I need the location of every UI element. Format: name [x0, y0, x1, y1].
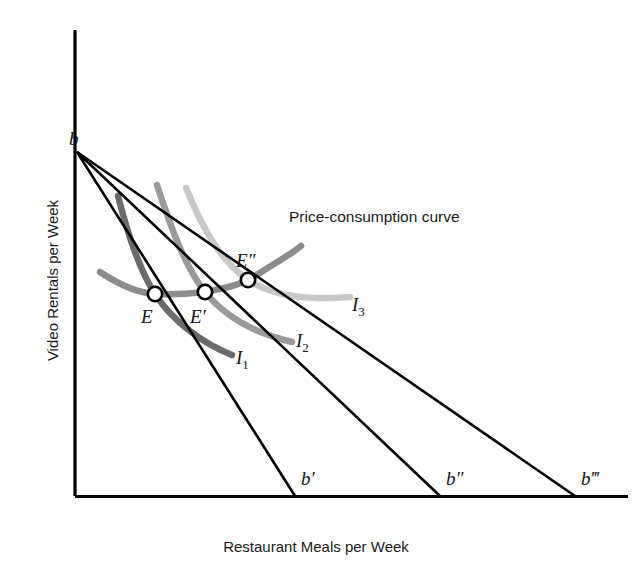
equilibrium-marker-E — [148, 287, 162, 301]
indifference-curve-label-1: I1 — [236, 347, 249, 373]
economics-figure: Restaurant Meals per Week Video Rentals … — [0, 0, 632, 573]
equilibrium-marker-E-prime — [198, 285, 212, 299]
budget-line-2 — [77, 152, 440, 496]
indifference-curve-label-2-sub: 2 — [302, 340, 309, 355]
chart-canvas — [0, 0, 632, 573]
equilibrium-marker-E-double-prime — [241, 273, 255, 287]
budget-end-label-1: b′ — [301, 468, 315, 490]
x-axis-title: Restaurant Meals per Week — [0, 538, 632, 555]
budget-origin-label: b — [69, 128, 79, 150]
price-consumption-curve-label: Price-consumption curve — [289, 208, 460, 226]
indifference-curve-label-3-sub: 3 — [358, 304, 365, 319]
budget-end-label-2: b″ — [446, 468, 463, 490]
equilibrium-label-E-double-prime: E″ — [236, 250, 256, 272]
indifference-curve-label-3: I3 — [352, 294, 365, 320]
equilibrium-label-E-prime: E′ — [190, 306, 206, 328]
y-axis-title: Video Rentals per Week — [44, 131, 61, 431]
indifference-curve-label-2: I2 — [296, 330, 309, 356]
equilibrium-label-E: E — [141, 306, 153, 328]
budget-end-label-3: b‴ — [581, 468, 598, 490]
budget-line-1 — [77, 152, 295, 496]
indifference-curve-label-1-sub: 1 — [242, 357, 249, 372]
